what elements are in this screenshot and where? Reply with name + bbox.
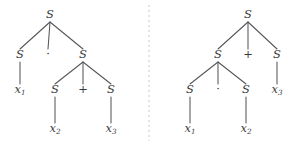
tree-node-nonterminal-r-d: S: [242, 82, 250, 96]
parse-tree-canvas: SS·Sx1S+Sx2x3SS+SS·Sx3x1x2: [0, 0, 298, 150]
tree-node-operator-l-plus: +: [78, 82, 88, 96]
tree-node-operator-l-dot: ·: [46, 47, 50, 61]
tree-edge: [218, 22, 248, 49]
tree-edge: [20, 22, 50, 49]
right-tree: SS+SS·Sx3x1x2: [184, 7, 283, 136]
tree-node-nonterminal-l-root: S: [46, 7, 54, 21]
left-tree-edges: [20, 22, 111, 123]
tree-node-nonterminal-r-root: S: [244, 7, 252, 21]
tree-edge: [218, 62, 246, 84]
tree-node-terminal-l-x1: x1: [14, 82, 25, 97]
tree-node-nonterminal-l-d: S: [107, 82, 115, 96]
right-tree-edges: [190, 22, 277, 123]
tree-edge: [83, 62, 111, 84]
tree-edge: [50, 22, 83, 49]
tree-node-nonterminal-l-b: S: [79, 47, 87, 61]
tree-edge: [248, 22, 277, 49]
tree-node-terminal-r-x2: x2: [240, 121, 252, 136]
tree-edge: [48, 22, 50, 49]
tree-node-operator-r-plus: +: [243, 47, 253, 61]
tree-node-operator-r-dot: ·: [216, 82, 220, 96]
tree-node-nonterminal-r-c: S: [186, 82, 194, 96]
tree-node-terminal-l-x3: x3: [105, 121, 117, 136]
tree-edge: [190, 62, 218, 84]
right-tree-nodes: SS+SS·Sx3x1x2: [184, 7, 283, 136]
tree-node-nonterminal-l-c: S: [51, 82, 59, 96]
left-tree: SS·Sx1S+Sx2x3: [14, 7, 117, 136]
tree-node-terminal-r-x1: x1: [184, 121, 195, 136]
tree-node-nonterminal-l-a: S: [16, 47, 24, 61]
left-tree-nodes: SS·Sx1S+Sx2x3: [14, 7, 117, 136]
tree-node-terminal-l-x2: x2: [49, 121, 61, 136]
tree-node-nonterminal-r-a: S: [214, 47, 222, 61]
tree-node-terminal-r-x3: x3: [271, 82, 283, 97]
tree-edge: [55, 62, 83, 84]
parse-tree-figure: SS·Sx1S+Sx2x3SS+SS·Sx3x1x2: [0, 0, 298, 150]
tree-node-nonterminal-r-b: S: [273, 47, 281, 61]
